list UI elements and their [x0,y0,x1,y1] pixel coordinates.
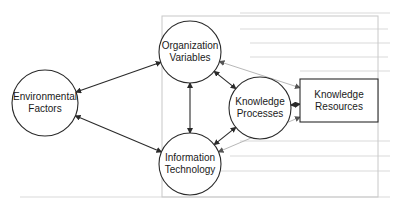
node-label: Knowledge [314,89,364,100]
node-label: Variables [170,52,211,63]
nodes: EnvironmentalFactorsOrganizationVariable… [12,21,378,195]
node-label: Technology [165,164,216,175]
knowledge-resources-node: KnowledgeResources [300,79,378,122]
concept-diagram: EnvironmentalFactorsOrganizationVariable… [0,0,394,204]
node-label: Organization [162,40,219,51]
knowledge-processes-node: KnowledgeProcesses [229,77,291,139]
information-technology-node: InformationTechnology [159,133,221,195]
edge-kp-kr [291,104,300,105]
node-label: Resources [315,101,363,112]
node-label: Information [165,152,215,163]
node-label: Processes [237,108,284,119]
node-label: Factors [28,103,61,114]
node-label: Environmental [13,91,77,102]
edge-org-kp [214,71,236,88]
node-label: Knowledge [235,96,285,107]
edge-env-it [75,116,161,152]
edge-env-org [76,62,161,92]
edge-it-kp [214,127,236,144]
organization-variables-node: OrganizationVariables [159,21,221,83]
environmental-factors-node: EnvironmentalFactors [12,70,78,136]
